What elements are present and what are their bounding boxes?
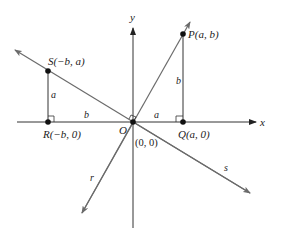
point-r-label: R(−b, 0) — [42, 128, 81, 141]
y-axis-label: y — [129, 11, 135, 23]
point-s — [45, 68, 51, 74]
segment-ro-length-label: b — [84, 109, 89, 120]
origin-coord-label: (0, 0) — [135, 137, 158, 149]
point-p-label: P(a, b) — [187, 28, 219, 41]
segment-pq-length-label: b — [176, 75, 181, 86]
point-r — [45, 119, 51, 125]
diagram-canvas: y x P(a, b) Q(a, 0) R(−b, 0) S(−b, a) O … — [0, 0, 281, 229]
point-p — [180, 31, 186, 37]
point-q-label: Q(a, 0) — [178, 128, 210, 141]
segment-oq-length-label: a — [154, 109, 159, 120]
point-origin — [130, 119, 136, 125]
point-s-label: S(−b, a) — [48, 55, 85, 68]
x-axis-label: x — [259, 116, 265, 128]
segment-sr-length-label: a — [51, 89, 56, 100]
coordinate-plane: y x P(a, b) Q(a, 0) R(−b, 0) S(−b, a) O … — [0, 0, 281, 229]
origin-label: O — [119, 124, 127, 136]
line-s-label: s — [224, 162, 228, 173]
point-q — [180, 119, 186, 125]
line-r-label: r — [90, 172, 94, 183]
